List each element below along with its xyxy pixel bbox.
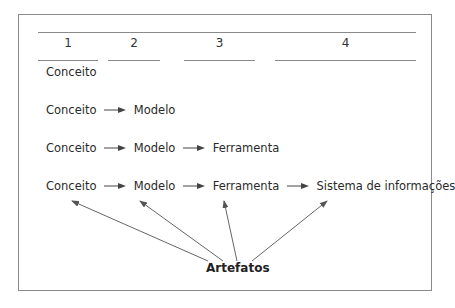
arrow-to-conceito [72, 201, 208, 261]
arrow-to-modelo [140, 201, 223, 261]
arrow-to-sistema [252, 201, 327, 261]
artefatos-label: Artefatos [206, 261, 270, 275]
arrow-to-ferramenta [224, 201, 237, 261]
